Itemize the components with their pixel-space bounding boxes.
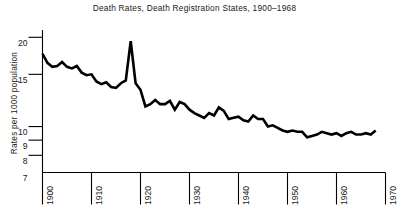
death-rate-line <box>43 41 376 137</box>
axis-lines <box>43 30 386 173</box>
tick-marks <box>29 37 386 204</box>
x-tick-1970: 1970 <box>388 185 398 204</box>
